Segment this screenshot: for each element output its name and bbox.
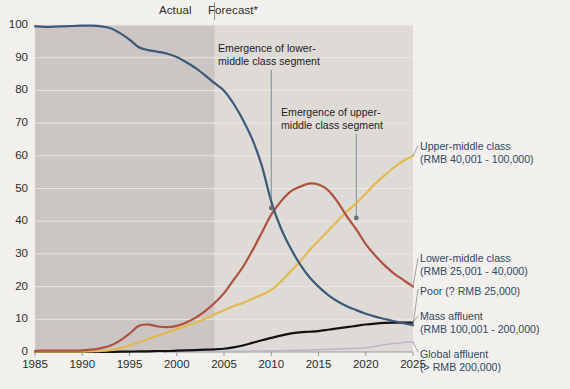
legend-lower-middle-range: (RMB 25,001 - 40,000) bbox=[420, 265, 528, 278]
x-axis-tick-label: 2020 bbox=[346, 358, 386, 370]
x-axis-tick-label: 2025 bbox=[393, 358, 433, 370]
annotation-lower-middle: Emergence of lower- middle class segment bbox=[218, 42, 320, 68]
legend-mass-affluent-name: Mass affluent bbox=[420, 310, 540, 323]
legend-item-upper-middle-class: Upper-middle class (RMB 40,001 - 100,000… bbox=[420, 140, 534, 165]
annotation-upper-middle: Emergence of upper- middle class segment bbox=[281, 106, 383, 132]
y-axis-tick-label: 90 bbox=[0, 51, 28, 63]
annotation-lower-middle-line2: middle class segment bbox=[218, 55, 320, 68]
legend-upper-middle-range: (RMB 40,001 - 100,000) bbox=[420, 153, 534, 166]
x-axis-tick-label: 2005 bbox=[204, 358, 244, 370]
x-axis-tick-label: 1990 bbox=[62, 358, 102, 370]
x-axis-tick-label: 2000 bbox=[157, 358, 197, 370]
x-axis-tick-label: 2015 bbox=[299, 358, 339, 370]
crossing-marker bbox=[354, 216, 359, 221]
annotation-lower-middle-line1: Emergence of lower- bbox=[218, 42, 320, 55]
y-axis-tick-label: 10 bbox=[0, 312, 28, 324]
legend-mass-affluent-range: (RMB 100,001 - 200,000) bbox=[420, 323, 540, 336]
forecast-period-label: Forecast* bbox=[208, 4, 258, 16]
header-band bbox=[0, 0, 570, 22]
legend-poor-name: Poor (? RMB 25,000) bbox=[420, 285, 520, 298]
crossing-marker bbox=[269, 206, 274, 211]
legend-lower-middle-name: Lower-middle class bbox=[420, 252, 528, 265]
chart-figure: Actual Forecast* Emergence of lower- mid… bbox=[0, 0, 570, 389]
legend-item-lower-middle-class: Lower-middle class (RMB 25,001 - 40,000) bbox=[420, 252, 528, 277]
actual-period-label: Actual bbox=[159, 4, 192, 16]
y-axis-tick-label: 0 bbox=[0, 345, 28, 357]
x-axis-tick-label: 1985 bbox=[15, 358, 55, 370]
x-axis-tick-label: 2010 bbox=[251, 358, 291, 370]
legend-item-mass-affluent: Mass affluent (RMB 100,001 - 200,000) bbox=[420, 310, 540, 335]
y-axis-tick-label: 50 bbox=[0, 182, 28, 194]
y-axis-tick-label: 100 bbox=[0, 18, 28, 30]
annotation-upper-middle-line2: middle class segment bbox=[281, 119, 383, 132]
y-axis-tick-label: 20 bbox=[0, 280, 28, 292]
y-axis-tick-label: 70 bbox=[0, 116, 28, 128]
y-axis-tick-label: 40 bbox=[0, 214, 28, 226]
annotation-upper-middle-line1: Emergence of upper- bbox=[281, 106, 383, 119]
y-axis-tick-label: 80 bbox=[0, 83, 28, 95]
y-axis-tick-label: 60 bbox=[0, 149, 28, 161]
legend-upper-middle-name: Upper-middle class bbox=[420, 140, 534, 153]
y-axis-tick-label: 30 bbox=[0, 247, 28, 259]
legend-item-poor: Poor (? RMB 25,000) bbox=[420, 285, 520, 298]
x-axis-tick-label: 1995 bbox=[110, 358, 150, 370]
